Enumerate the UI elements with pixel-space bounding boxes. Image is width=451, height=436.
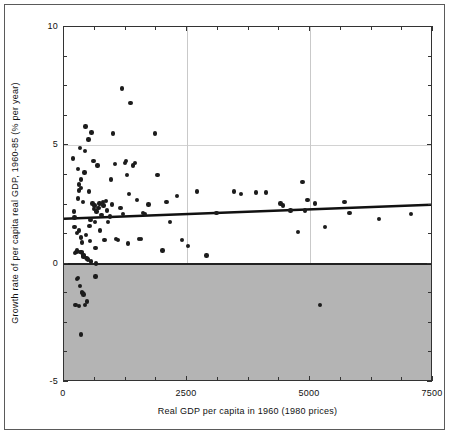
y-tick-label: 0 (33, 258, 58, 268)
y-axis-minor-tick (63, 233, 67, 234)
scatter-point (101, 203, 105, 207)
scatter-point (135, 198, 139, 202)
y-axis-minor-tick (63, 351, 67, 352)
scatter-point (91, 159, 95, 163)
scatter-point (118, 206, 122, 210)
scatter-point (164, 200, 168, 204)
y-axis-tick (63, 263, 68, 264)
scatter-point (120, 86, 124, 90)
plot-area (63, 26, 432, 381)
scatter-point (87, 224, 91, 228)
y-tick-label: 5 (33, 139, 58, 149)
scatter-point (126, 241, 130, 245)
scatter-point (85, 299, 89, 303)
scatter-point (204, 253, 208, 257)
y-axis-minor-tick-right (428, 292, 432, 293)
scatter-point (79, 332, 83, 336)
x-axis-minor-tick (278, 26, 279, 30)
figure-frame: 0250050007500-50510 Real GDP per capita … (4, 4, 445, 430)
scatter-point (80, 240, 84, 244)
x-axis-tick-top (186, 26, 187, 31)
scatter-point (71, 156, 75, 160)
x-tick-label: 7500 (421, 388, 442, 398)
y-axis-tick (63, 144, 68, 145)
scatter-point (153, 131, 157, 135)
y-tick-label: 10 (33, 21, 58, 31)
x-axis-minor-tick (340, 26, 341, 30)
x-axis-minor-tick (155, 26, 156, 30)
x-axis-minor-tick (125, 377, 126, 381)
x-axis-tick (186, 376, 187, 381)
y-axis-minor-tick-right (428, 204, 432, 205)
scatter-point (104, 199, 108, 203)
x-axis-minor-tick (125, 26, 126, 30)
scatter-point (296, 230, 300, 234)
y-axis-tick (63, 381, 68, 382)
y-axis-minor-tick (63, 322, 67, 323)
scatter-point (98, 228, 102, 232)
scatter-point (96, 206, 100, 210)
scatter-point (139, 237, 143, 241)
x-axis-minor-tick (94, 377, 95, 381)
x-axis-minor-tick (371, 377, 372, 381)
scatter-point (72, 215, 76, 219)
x-axis-minor-tick (94, 26, 95, 30)
x-axis-minor-tick (248, 26, 249, 30)
scatter-point (72, 209, 76, 213)
scatter-point (82, 170, 86, 174)
y-axis-tick-right (427, 381, 432, 382)
regression-trend-line (64, 27, 431, 380)
x-axis-minor-tick (278, 377, 279, 381)
scatter-point (155, 173, 159, 177)
x-axis-minor-tick (340, 377, 341, 381)
scatter-point (313, 201, 317, 205)
scatter-point (195, 189, 199, 193)
scatter-point (232, 189, 236, 193)
scatter-point (81, 292, 85, 296)
scatter-point (108, 214, 112, 218)
x-axis-label: Real GDP per capita in 1960 (1980 prices… (63, 406, 432, 416)
scatter-point (347, 211, 351, 215)
scatter-point (86, 137, 90, 141)
scatter-point (128, 101, 132, 105)
y-axis-minor-tick-right (428, 351, 432, 352)
x-axis-minor-tick (248, 377, 249, 381)
figure-screenshot: 0250050007500-50510 Real GDP per capita … (0, 0, 451, 436)
x-axis-minor-tick (155, 377, 156, 381)
scatter-point (95, 163, 99, 167)
y-tick-label: -5 (33, 376, 58, 386)
y-axis-minor-tick (63, 204, 67, 205)
scatter-point (102, 238, 106, 242)
x-axis-tick-top (309, 26, 310, 31)
scatter-point (99, 213, 103, 217)
scatter-point (94, 209, 98, 213)
x-axis-minor-tick (217, 26, 218, 30)
x-axis-minor-tick (371, 26, 372, 30)
x-axis-minor-tick (401, 26, 402, 30)
scatter-point (93, 274, 97, 278)
scatter-point (89, 130, 93, 134)
scatter-point (305, 198, 309, 202)
y-axis-minor-tick-right (428, 85, 432, 86)
x-tick-label: 0 (60, 388, 65, 398)
x-tick-label: 5000 (298, 388, 319, 398)
x-tick-label: 2500 (175, 388, 196, 398)
y-axis-tick (63, 26, 68, 27)
y-axis-tick-right (427, 144, 432, 145)
y-axis-minor-tick (63, 174, 67, 175)
x-axis-tick (309, 376, 310, 381)
x-axis-tick (432, 376, 433, 381)
scatter-point (264, 190, 268, 194)
scatter-point (281, 203, 285, 207)
y-axis-minor-tick (63, 115, 67, 116)
y-axis-tick-right (427, 263, 432, 264)
scatter-point (323, 225, 327, 229)
y-axis-minor-tick (63, 292, 67, 293)
y-axis-tick-right (427, 26, 432, 27)
y-axis-minor-tick-right (428, 174, 432, 175)
y-axis-minor-tick-right (428, 56, 432, 57)
scatter-point (83, 124, 87, 128)
y-axis-label: Growth rate of per capita real GDP, 1960… (10, 53, 20, 353)
scatter-point (288, 208, 292, 212)
y-axis-minor-tick-right (428, 233, 432, 234)
